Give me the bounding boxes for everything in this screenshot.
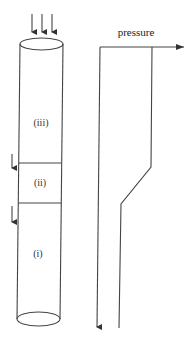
column-top-ellipse xyxy=(20,38,63,50)
column-right-wall xyxy=(60,44,63,319)
region-label-ii: (ii) xyxy=(34,177,46,189)
column-left-wall xyxy=(17,44,20,319)
inflow-arrows xyxy=(32,14,52,32)
region-label-iii: (iii) xyxy=(34,117,49,129)
depth-axis xyxy=(97,47,100,327)
pressure-profile-curve xyxy=(119,47,152,328)
column-bottom-ellipse xyxy=(17,312,60,326)
region-label-i: (i) xyxy=(33,248,42,260)
pressure-plot: pressure xyxy=(97,26,184,328)
pressure-axis-label: pressure xyxy=(118,26,155,38)
diagram-canvas: (iii) (ii) (i) pressure xyxy=(0,0,194,343)
